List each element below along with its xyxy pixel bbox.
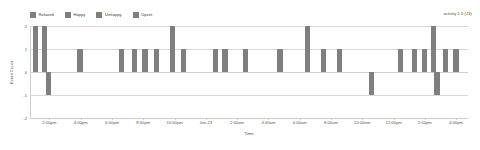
bar[interactable] [277,49,282,72]
bar[interactable] [77,49,82,72]
bar[interactable] [431,26,436,72]
bar[interactable] [181,49,186,72]
x-axis-tick-mark [268,118,269,120]
x-axis-tick-mark [175,118,176,120]
x-axis-tick-mark [362,118,363,120]
x-axis-tick-mark [237,118,238,120]
bar[interactable] [422,49,427,72]
activity-annotation: activity 1.0 (23) [443,11,472,16]
legend-item[interactable]: Relaxed [30,10,54,19]
x-axis-tick-label: 4:00pm [74,120,88,125]
bar[interactable] [33,26,38,72]
x-axis-tick-mark [206,118,207,120]
bar[interactable] [42,26,47,72]
bar[interactable] [46,72,51,95]
x-axis-tick-label: 6:00pm [105,120,119,125]
bar[interactable] [222,49,227,72]
gridline [30,26,468,27]
x-axis-tick-mark [331,118,332,120]
plot-area: 210-1-2 [30,26,468,118]
bar[interactable] [453,49,458,72]
bar[interactable] [170,26,175,72]
x-axis-tick-label: 12:00pm [385,120,401,125]
legend-item[interactable]: Upset [133,10,152,19]
x-axis-tick-label: 10:00am [354,120,370,125]
bar[interactable] [213,49,218,72]
bar[interactable] [369,72,374,95]
legend-item[interactable]: Happy [65,10,86,19]
legend-item-label: Upset [141,12,152,18]
legend-item[interactable]: Unhappy [96,10,121,19]
bar[interactable] [243,49,248,72]
x-axis-line [30,118,468,119]
x-axis-tick-mark [394,118,395,120]
bar[interactable] [443,49,448,72]
x-axis-tick-label: Jun 23 [200,120,213,125]
x-axis-tick-mark [425,118,426,120]
legend-item-label: Unhappy [105,12,122,18]
bar[interactable] [154,49,159,72]
gridline [30,72,468,73]
x-axis-tick-mark [143,118,144,120]
x-axis-ticks: 2:00pm4:00pm6:00pm8:00pm10:00pmJun 232:0… [30,120,468,130]
x-axis-tick-label: 4:00am [261,120,275,125]
x-axis-tick-mark [456,118,457,120]
bar[interactable] [321,49,326,72]
x-axis-tick-label: 8:00pm [136,120,150,125]
x-axis-tick-label: 2:00am [230,120,244,125]
bar[interactable] [305,26,310,72]
y-axis-tick-label: 0 [25,70,27,75]
legend-swatch-icon [133,12,139,18]
y-axis-tick-label: 2 [25,24,27,29]
y-axis-title: Event Count [8,26,16,118]
bar[interactable] [132,49,137,72]
y-axis-title-label: Event Count [10,60,15,83]
x-axis-tick-label: 8:00am [324,120,338,125]
legend-item-label: Relaxed [39,12,54,18]
x-axis-tick-mark [112,118,113,120]
x-axis-tick-mark [81,118,82,120]
x-axis-tick-label: 10:00pm [166,120,182,125]
legend-item-label: Happy [73,12,85,18]
legend-swatch-icon [30,12,36,18]
x-axis-tick-label: 6:00am [293,120,307,125]
legend-swatch-icon [65,12,71,18]
bar[interactable] [142,49,147,72]
chart-legend: RelaxedHappyUnhappyUpset [30,10,152,19]
gridline [30,95,468,96]
x-axis-tick-label: 4:00pm [449,120,463,125]
legend-swatch-icon [96,12,102,18]
x-axis-tick-mark [300,118,301,120]
x-axis-tick-label: 2:00pm [42,120,56,125]
bar[interactable] [119,49,124,72]
bar[interactable] [337,49,342,72]
y-axis-tick-label: -1 [23,93,27,98]
bar[interactable] [398,49,403,72]
activity-bar-chart: RelaxedHappyUnhappyUpset activity 1.0 (2… [0,0,480,150]
x-axis-tick-mark [49,118,50,120]
x-axis-title: Time [30,131,468,136]
y-axis-tick-label: 1 [25,47,27,52]
y-axis-tick-label: -2 [23,116,27,121]
bar[interactable] [434,72,439,95]
x-axis-tick-label: 2:00pm [418,120,432,125]
bar[interactable] [412,49,417,72]
